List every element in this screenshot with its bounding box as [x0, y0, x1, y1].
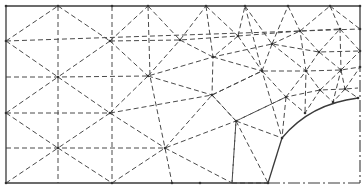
- mesh-edge: [345, 67, 360, 89]
- mesh-node: [329, 5, 332, 8]
- mesh-node: [304, 112, 307, 115]
- mesh-node: [179, 39, 182, 42]
- mesh-node: [357, 97, 360, 100]
- mesh-node: [212, 56, 215, 59]
- mesh-edge: [6, 88, 358, 148]
- mesh-node: [57, 5, 60, 8]
- mesh-edges: [6, 6, 360, 183]
- mesh-edge: [341, 51, 360, 70]
- mesh-node: [344, 88, 347, 91]
- mesh-edge: [306, 52, 319, 71]
- mesh-edge: [238, 6, 245, 36]
- mesh-edge: [110, 41, 148, 76]
- mesh-edge: [112, 148, 165, 183]
- mesh-node: [171, 182, 174, 185]
- mesh-node: [359, 5, 362, 8]
- mesh-edge: [110, 6, 148, 41]
- mesh-node: [299, 30, 302, 33]
- mesh-edge: [319, 52, 341, 70]
- mesh-edge: [212, 95, 236, 121]
- mesh-edge: [165, 95, 212, 148]
- mesh-edge: [340, 29, 360, 51]
- mesh-edge: [330, 6, 341, 102]
- mesh-node: [271, 43, 274, 46]
- mesh-edge: [341, 70, 345, 89]
- mesh-edge: [58, 6, 110, 41]
- mesh-edge: [206, 6, 238, 36]
- mesh-node: [111, 182, 114, 185]
- mesh-edge: [319, 29, 340, 52]
- mesh-node: [237, 35, 240, 38]
- mesh-node: [111, 5, 114, 8]
- mesh-node: [5, 40, 8, 43]
- fem-mesh-diagram: [0, 0, 364, 193]
- mesh-node: [319, 89, 322, 92]
- mesh-node: [235, 120, 238, 123]
- mesh-node: [57, 147, 60, 150]
- mesh-node: [109, 40, 112, 43]
- mesh-node: [261, 70, 264, 73]
- mesh-edge: [300, 31, 319, 52]
- mesh-edge: [110, 29, 340, 41]
- mesh-edge: [262, 44, 272, 71]
- mesh-edge: [320, 70, 341, 90]
- mesh-edge: [272, 6, 288, 44]
- mesh-node: [57, 76, 60, 79]
- mesh-edge: [245, 6, 272, 44]
- mesh-node: [339, 28, 342, 31]
- mesh-node: [164, 147, 167, 150]
- mesh-node: [211, 94, 214, 97]
- mesh-node: [5, 112, 8, 115]
- mesh-node: [332, 101, 335, 104]
- mesh-edge: [300, 6, 330, 31]
- mesh-edge: [165, 148, 232, 183]
- mesh-node: [109, 112, 112, 115]
- mesh-node: [287, 5, 290, 8]
- mesh-node: [5, 182, 8, 185]
- mesh-edge: [282, 97, 286, 138]
- mesh-edge: [148, 6, 172, 183]
- mesh-edge: [213, 57, 262, 71]
- mesh-edge: [180, 40, 213, 57]
- mesh-node: [285, 96, 288, 99]
- mesh-edge: [6, 113, 58, 148]
- mesh-node: [359, 50, 362, 53]
- mesh-node: [281, 137, 284, 140]
- mesh-node: [147, 75, 150, 78]
- mesh-edge: [6, 77, 58, 113]
- mesh-edge: [306, 71, 320, 90]
- mesh-edge: [58, 77, 110, 113]
- mesh-edge: [58, 113, 110, 148]
- mesh-edge: [58, 148, 112, 183]
- mesh-edge: [6, 148, 58, 183]
- mesh-node: [205, 5, 208, 8]
- mesh-edge: [238, 36, 262, 71]
- mesh-edge: [213, 36, 238, 57]
- plate-boundary: [6, 6, 360, 183]
- cutout-arc: [282, 98, 358, 138]
- mesh-node: [318, 51, 321, 54]
- mesh-edge: [272, 44, 306, 71]
- mesh-node: [244, 5, 247, 8]
- mesh-edge: [345, 89, 358, 98]
- mesh-node: [305, 70, 308, 73]
- mesh-edge: [148, 40, 180, 76]
- boundary-edge: [268, 138, 282, 183]
- mesh-edge: [236, 121, 268, 183]
- mesh-edge: [110, 113, 165, 148]
- mesh-edge: [58, 41, 110, 77]
- mesh-node: [359, 28, 362, 31]
- mesh-edge: [6, 67, 360, 113]
- mesh-node: [199, 182, 202, 185]
- mesh-node: [147, 5, 150, 8]
- mesh-node: [5, 5, 8, 8]
- mesh-edge: [6, 6, 58, 41]
- mesh-edge: [212, 71, 262, 95]
- mesh-node: [267, 182, 270, 185]
- mesh-edge: [148, 76, 212, 95]
- mesh-edge: [6, 41, 58, 77]
- mesh-node: [340, 69, 343, 72]
- mesh-edge: [320, 90, 333, 102]
- mesh-node: [359, 66, 362, 69]
- mesh-edge: [286, 97, 305, 113]
